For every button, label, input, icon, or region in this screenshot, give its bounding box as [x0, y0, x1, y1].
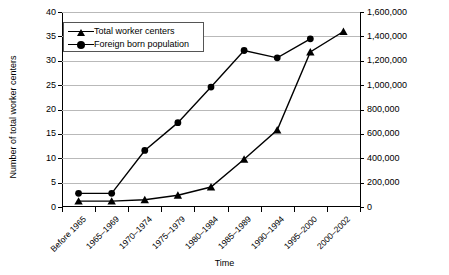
y-axis-right-tick-mark — [360, 61, 364, 62]
legend-label: Total worker centers — [94, 26, 175, 37]
y-axis-right-tick-label: 400,000 — [367, 154, 427, 163]
x-axis-tick-mark — [228, 207, 229, 212]
gridline — [62, 110, 360, 111]
y-axis-left-tick-label: 0 — [22, 203, 56, 212]
y-axis-left-tick-mark — [58, 158, 62, 159]
y-axis-right-tick-label: 1,000,000 — [367, 81, 427, 90]
x-axis-tick-mark — [294, 207, 295, 212]
y-axis-right-tick-label: 600,000 — [367, 129, 427, 138]
y-axis-left-tick-mark — [58, 12, 62, 13]
triangle-marker-icon — [68, 26, 94, 37]
y-axis-left-tick-label: 20 — [22, 105, 56, 114]
x-axis-tick-mark — [261, 207, 262, 212]
y-axis-left-tick-label: 35 — [22, 32, 56, 41]
x-axis-tick-mark — [95, 207, 96, 212]
y-axis-left-tick-label: 25 — [22, 81, 56, 90]
chart-legend: Total worker centers Foreign born popula… — [63, 22, 204, 52]
y-axis-left-tick-label: 5 — [22, 178, 56, 187]
y-axis-left-tick-label: 40 — [22, 8, 56, 17]
chart-container: Number of total worker centers Foreign b… — [0, 0, 449, 275]
gridline — [62, 158, 360, 159]
y-axis-right-tick-mark — [360, 36, 364, 37]
x-axis-tick-mark — [62, 207, 63, 212]
y-axis-left-tick-mark — [58, 183, 62, 184]
y-axis-left-tick-mark — [58, 110, 62, 111]
gridline — [62, 134, 360, 135]
y-axis-right-tick-label: 200,000 — [367, 178, 427, 187]
circle-marker-icon — [68, 39, 94, 50]
y-axis-left-tick-mark — [58, 134, 62, 135]
y-axis-left-tick-label: 10 — [22, 154, 56, 163]
y-axis-right-tick-mark — [360, 110, 364, 111]
y-axis-right-tick-label: 1,200,000 — [367, 56, 427, 65]
legend-label: Foreign born population — [94, 39, 189, 50]
x-axis-title: Time — [0, 258, 449, 268]
x-axis-tick-mark — [194, 207, 195, 212]
gridline — [62, 12, 360, 13]
legend-item-total-worker-centers: Total worker centers — [68, 25, 199, 38]
y-axis-left-tick-mark — [58, 61, 62, 62]
y-axis-right-tick-mark — [360, 134, 364, 135]
y-axis-right-tick-mark — [360, 183, 364, 184]
legend-item-foreign-born-population: Foreign born population — [68, 38, 199, 51]
y-axis-right-tick-mark — [360, 158, 364, 159]
x-axis-tick-mark — [128, 207, 129, 212]
y-axis-right-tick-mark — [360, 12, 364, 13]
y-axis-left-tick-label: 15 — [22, 129, 56, 138]
x-axis-tick-mark — [161, 207, 162, 212]
gridline — [62, 183, 360, 184]
y-axis-right-tick-label: 0 — [367, 203, 427, 212]
gridline — [62, 85, 360, 86]
gridline — [62, 61, 360, 62]
y-axis-left-tick-mark — [58, 85, 62, 86]
x-axis-tick-mark — [327, 207, 328, 212]
y-axis-right-tick-label: 1,600,000 — [367, 8, 427, 17]
y-axis-right-tick-mark — [360, 85, 364, 86]
y-axis-right-tick-label: 800,000 — [367, 105, 427, 114]
y-axis-left-tick-mark — [58, 36, 62, 37]
x-axis-tick-mark — [360, 207, 361, 212]
y-axis-left-tick-label: 30 — [22, 56, 56, 65]
y-axis-left-title: Number of total worker centers — [8, 32, 18, 202]
y-axis-right-tick-label: 1,400,000 — [367, 32, 427, 41]
